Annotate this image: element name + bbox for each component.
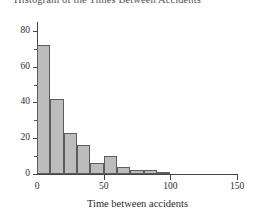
histogram-figure: Histogram of the Times Between Accidents…: [0, 0, 268, 222]
y-axis-tick-label: 0: [4, 169, 30, 179]
histogram-bar: [130, 170, 143, 174]
x-axis-tick: [104, 175, 105, 180]
histogram-bar: [64, 133, 77, 174]
x-axis-tick-label: 100: [150, 182, 190, 192]
x-axis-title: Time between accidents: [37, 198, 238, 209]
histogram-bar: [77, 145, 90, 174]
histogram-bar: [50, 99, 63, 174]
y-axis-tick-label: 60: [4, 62, 30, 72]
chart-title: Histogram of the Times Between Accidents: [14, 0, 264, 5]
histogram-bar: [117, 167, 130, 174]
y-axis-tick-label: 40: [4, 97, 30, 107]
y-axis-tick-label: 20: [4, 133, 30, 143]
histogram-bar: [104, 156, 117, 174]
histogram-bar: [157, 172, 170, 174]
histogram-bar: [144, 170, 157, 174]
histogram-bar: [90, 163, 103, 174]
x-axis-tick: [237, 175, 238, 180]
y-axis-tick: [33, 174, 38, 175]
y-axis-tick-label: 80: [4, 26, 30, 36]
x-axis-tick-label: 0: [17, 182, 57, 192]
plot-area: [37, 22, 237, 174]
x-axis-tick-label: 50: [84, 182, 124, 192]
histogram-bar: [37, 45, 50, 174]
x-axis-line: [37, 174, 238, 175]
x-axis-tick: [170, 175, 171, 180]
x-axis-tick-label: 150: [217, 182, 257, 192]
